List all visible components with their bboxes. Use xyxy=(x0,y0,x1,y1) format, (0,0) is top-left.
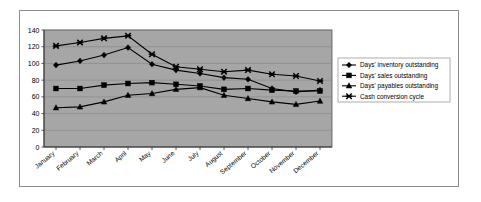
y-tick-label: 80 xyxy=(32,77,40,84)
legend-label: Days' sales outstanding xyxy=(360,72,428,80)
x-tick-label: April xyxy=(113,149,129,164)
y-tick-label: 40 xyxy=(32,110,40,117)
data-point-square xyxy=(54,86,59,91)
x-tick-label: June xyxy=(160,149,176,164)
x-tick-label: September xyxy=(218,149,248,176)
x-tick-label: October xyxy=(249,149,272,170)
x-tick-label: May xyxy=(138,149,153,164)
y-tick-label: 140 xyxy=(28,27,40,34)
x-tick-label: August xyxy=(203,149,224,168)
data-point-square xyxy=(347,73,352,78)
legend-label: Cash conversion cycle xyxy=(360,93,424,101)
x-tick-label: July xyxy=(186,149,201,163)
data-point-square xyxy=(126,81,131,86)
x-tick-label: January xyxy=(33,149,57,171)
y-tick-label: 0 xyxy=(36,144,40,151)
y-tick-label: 60 xyxy=(32,93,40,100)
data-point-square xyxy=(246,86,251,91)
y-tick-label: 20 xyxy=(32,127,40,134)
data-point-square xyxy=(222,87,227,92)
legend-label: Days' inventory outstanding xyxy=(360,61,439,69)
x-tick-label: March xyxy=(85,149,104,166)
legend-label: Days' payables outstanding xyxy=(360,82,438,90)
data-point-square xyxy=(150,80,155,85)
data-point-square xyxy=(270,88,275,93)
x-axis-tick-labels: JanuaryFebruaryMarchAprilMayJuneJulyAugu… xyxy=(33,149,320,176)
chart-figure: 020406080100120140 JanuaryFebruaryMarchA… xyxy=(0,0,481,202)
x-tick-label: February xyxy=(55,149,81,173)
data-point-square xyxy=(78,86,83,91)
y-tick-label: 100 xyxy=(28,60,40,67)
line-chart: 020406080100120140 JanuaryFebruaryMarchA… xyxy=(0,0,481,202)
data-point-square xyxy=(294,89,299,94)
data-point-square xyxy=(102,83,107,88)
x-tick-label: December xyxy=(292,149,320,174)
y-axis-tick-labels: 020406080100120140 xyxy=(28,27,40,151)
data-point-square xyxy=(318,89,323,94)
y-tick-label: 120 xyxy=(28,43,40,50)
